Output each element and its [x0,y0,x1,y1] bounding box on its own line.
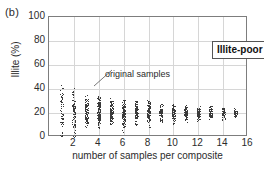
y-tick-label: 20 [1,107,45,117]
data-point [162,109,163,110]
data-point [148,114,149,115]
data-point [185,113,186,114]
data-point [75,133,76,134]
data-point [63,88,64,89]
data-point [187,107,188,108]
data-point [212,114,213,115]
data-point [85,107,86,108]
data-point [162,119,163,120]
data-point [63,119,64,120]
data-point [186,119,187,120]
data-point [123,132,124,133]
data-point [87,112,88,113]
data-point [211,108,212,109]
data-point [187,117,188,118]
data-point [136,106,137,107]
data-point [88,110,89,111]
data-point [235,117,236,118]
data-point [62,133,63,134]
data-point [136,121,137,122]
data-point [124,127,125,128]
data-point [100,120,101,121]
data-point [162,104,163,105]
data-point [209,119,210,120]
data-point [137,117,138,118]
data-point [99,99,100,100]
data-point [123,125,124,126]
data-point [136,124,137,125]
data-point [111,101,112,102]
data-point [75,117,76,118]
data-point [97,113,98,114]
data-point [136,118,137,119]
data-point [225,114,226,115]
data-point [72,120,73,121]
data-point [159,113,160,114]
data-point [137,114,138,115]
data-point [124,107,125,108]
data-point [223,109,224,110]
data-point [87,125,88,126]
data-point [110,102,111,103]
data-point [187,122,188,123]
data-point [123,113,124,114]
data-point [61,108,62,109]
x-tick-label: 4 [95,137,101,149]
data-point [110,123,111,124]
data-point [61,96,62,97]
data-point [225,119,226,120]
data-point [73,119,74,120]
data-point [100,123,101,124]
data-point [186,115,187,116]
data-point [87,114,88,115]
data-point [88,101,89,102]
data-point [137,104,138,105]
data-point [98,118,99,119]
x-axis-title: number of samples per composite [48,150,247,161]
data-point [124,123,125,124]
data-point [173,112,174,113]
data-point [60,122,61,123]
data-point [98,115,99,116]
data-point [113,109,114,110]
data-point [150,108,151,109]
data-point [75,130,76,131]
data-point [61,102,62,103]
data-point [111,121,112,122]
x-tick-label: 14 [217,137,228,149]
data-point [125,121,126,122]
y-tick-label: 0 [1,131,45,141]
y-axis-tick-labels: 020406080100 [0,16,45,136]
data-point [211,109,212,110]
data-point [63,106,64,107]
data-point [99,128,100,129]
data-point [74,132,75,133]
data-point [137,101,138,102]
data-point [63,122,64,123]
data-point [162,117,163,118]
data-point [135,121,136,122]
data-point [223,115,224,116]
data-point [149,121,150,122]
data-point [135,112,136,113]
data-point [113,101,114,102]
data-point [63,104,64,105]
data-point [112,114,113,115]
data-point [199,117,200,118]
data-point [86,127,87,128]
gridline-horizontal [49,65,246,66]
data-point [234,112,235,113]
data-point [110,98,111,99]
data-point [197,121,198,122]
data-point [60,101,61,102]
data-point [136,102,137,103]
data-point [86,123,87,124]
data-point [99,117,100,118]
data-point [185,119,186,120]
data-point [112,118,113,119]
data-point [87,123,88,124]
site-label-box: Illite-poor site [212,41,264,59]
data-point [73,107,74,108]
data-point [111,111,112,112]
data-point [234,108,235,109]
